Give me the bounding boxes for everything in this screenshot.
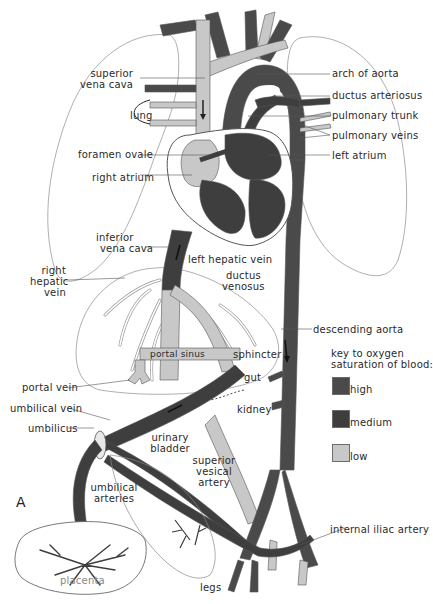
key-label-high: high [350,384,373,395]
label-legs: legs [200,582,221,593]
heart [167,129,293,246]
label-umbilical-arteries: umbilical arteries [88,482,140,504]
label-urinary-bladder: urinary bladder [148,432,192,454]
label-right-atrium: right atrium [92,172,154,183]
label-placenta: placenta [60,575,105,586]
label-portal-sinus: portal sinus [150,349,205,360]
label-superior-vesical-artery: superior vesical artery [190,455,238,488]
panel-letter: A [16,494,26,510]
label-left-hepatic-vein: left hepatic vein [188,254,272,265]
label-internal-iliac-artery: internal iliac artery [330,524,429,535]
label-portal-vein: portal vein [22,382,78,393]
label-foramen-ovale: foramen ovale [78,149,153,160]
superior-vena-cava [196,20,210,140]
label-right-hepatic-vein: right hepatic vein [30,265,66,298]
head-neck-vessels [160,10,292,62]
key-label-low: low [350,451,368,462]
label-ductus-venosus: ductus venosus [222,270,265,292]
label-lung: lung [130,110,153,121]
key-swatch-high [332,377,350,395]
key-title: key to oxygen saturation of blood: [331,348,433,370]
label-left-atrium: left atrium [332,150,387,161]
key-swatch-medium [332,410,350,428]
label-arch-of-aorta: arch of aorta [332,68,399,79]
label-descending-aorta: descending aorta [313,324,403,335]
label-gut: gut [244,372,261,383]
label-umbilicus: umbilicus [28,423,78,434]
key-swatch-low [332,444,350,462]
label-ductus-arteriosus: ductus arteriosus [332,90,422,101]
label-pulmonary-trunk: pulmonary trunk [332,110,419,121]
label-kidney: kidney [237,404,272,415]
label-pulmonary-veins: pulmonary veins [332,130,418,141]
label-sphincter: sphincter [233,349,282,360]
label-superior-vena-cava: superior vena cava [80,68,133,90]
label-inferior-vena-cava: inferior vena cava [96,232,153,254]
label-umbilical-vein: umbilical vein [10,403,82,414]
portal-vein-vessel [128,360,150,384]
key-label-medium: medium [350,417,392,428]
